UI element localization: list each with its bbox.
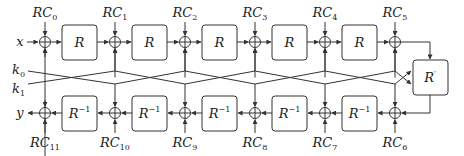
xor-bottom-4-icon [320, 108, 331, 119]
to-middle-arrow [401, 42, 431, 59]
round-constant-label-bottom-5-base: RC [382, 135, 403, 150]
round-constant-label-top-0: RC0 [32, 5, 58, 22]
key-label-k1-subscript: 1 [20, 89, 25, 98]
round-function-label-3-base: R [284, 35, 295, 50]
from-middle-arrow [402, 95, 431, 113]
round-constant-label-bottom-0-base: RC [29, 135, 50, 150]
round-function-label-3: R [284, 35, 295, 50]
inverse-round-label-2-superscript: −1 [219, 105, 231, 114]
key-label-k0: k0 [12, 62, 25, 79]
round-constant-label-bottom-4-base: RC [312, 135, 333, 150]
round-constant-label-bottom-1-base: RC [99, 135, 120, 150]
round-function-label-1: R [144, 35, 155, 50]
xor-bottom-5-icon [390, 108, 401, 119]
xor-bottom-0-icon [40, 108, 51, 119]
inverse-round-label-1-superscript: −1 [149, 105, 161, 114]
round-function-label-0-base: R [74, 35, 85, 50]
xor-top-4-icon [320, 37, 331, 48]
round-constant-label-bottom-3-base: RC [242, 135, 263, 150]
round-constant-label-top-5: RC5 [382, 5, 408, 22]
round-constant-label-bottom-2: RC9 [172, 135, 198, 152]
xor-top-0-icon [40, 37, 51, 48]
round-constant-label-top-3: RC3 [242, 5, 268, 22]
round-constant-label-top-2-subscript: 2 [192, 13, 197, 22]
xor-top-5-icon [390, 37, 401, 48]
xor-bottom-2-icon [180, 108, 191, 119]
key-label-k1-base: k [12, 81, 20, 96]
output-label-y-base: y [15, 105, 24, 120]
inverse-round-label-3-superscript: −1 [289, 105, 301, 114]
round-constant-label-bottom-5: RC6 [382, 135, 408, 152]
round-constant-label-bottom-4-subscript: 7 [332, 143, 337, 152]
inverse-round-label-4-base: R [348, 106, 359, 121]
inverse-round-label-0-superscript: −1 [79, 105, 91, 114]
inverse-round-label-1-base: R [138, 106, 149, 121]
input-label-x: x [16, 34, 24, 49]
round-constant-label-bottom-4: RC7 [312, 135, 338, 152]
round-function-label-4-base: R [354, 35, 365, 50]
inverse-round-label-2-base: R [208, 106, 219, 121]
inverse-round-label-0-base: R [68, 106, 79, 121]
round-constant-label-top-2-base: RC [172, 5, 193, 20]
inverse-round-label-4-superscript: −1 [359, 105, 371, 114]
round-constant-label-top-4: RC4 [312, 5, 338, 22]
xor-top-1-icon [110, 37, 121, 48]
round-constant-label-bottom-3: RC8 [242, 135, 268, 152]
cipher-structure-diagram: xRC0RC1RC2RC3RC4RC5RRRRRR′k0k1RC11RC10RC… [0, 0, 464, 156]
round-constant-label-top-1-subscript: 1 [122, 13, 127, 22]
round-constant-label-top-1: RC1 [102, 5, 128, 22]
round-constant-label-bottom-1-subscript: 10 [120, 143, 130, 152]
round-constant-label-top-0-base: RC [32, 5, 53, 20]
input-label-x-base: x [16, 34, 24, 49]
round-constant-label-top-2: RC2 [172, 5, 198, 22]
round-function-label-2-base: R [214, 35, 225, 50]
xor-bottom-1-icon [110, 108, 121, 119]
round-constant-label-top-4-base: RC [312, 5, 333, 20]
output-label-y: y [15, 105, 24, 120]
round-constant-label-top-0-subscript: 0 [52, 13, 57, 22]
round-constant-label-bottom-1: RC10 [99, 135, 130, 152]
round-constant-label-bottom-5-subscript: 6 [402, 143, 407, 152]
round-function-label-2: R [214, 35, 225, 50]
round-constant-label-bottom-0: RC11 [29, 135, 60, 152]
middle-function-label-superscript: ′ [434, 69, 436, 78]
key-label-k1: k1 [12, 81, 25, 98]
xor-top-2-icon [180, 37, 191, 48]
round-function-label-0: R [74, 35, 85, 50]
round-constant-label-bottom-3-subscript: 8 [262, 143, 267, 152]
round-constant-label-bottom-2-base: RC [172, 135, 193, 150]
xor-top-3-icon [250, 37, 261, 48]
round-function-label-4: R [354, 35, 365, 50]
round-constant-label-top-4-subscript: 4 [332, 13, 337, 22]
round-constant-label-top-3-base: RC [242, 5, 263, 20]
middle-function-label-base: R [423, 70, 434, 85]
key-line-k1 [28, 71, 411, 84]
key-label-k0-base: k [12, 62, 20, 77]
round-constant-label-top-1-base: RC [102, 5, 123, 20]
xor-bottom-3-icon [250, 108, 261, 119]
round-constant-label-top-3-subscript: 3 [262, 13, 267, 22]
round-constant-label-top-5-subscript: 5 [402, 13, 407, 22]
round-constant-label-top-5-base: RC [382, 5, 403, 20]
round-constant-label-bottom-2-subscript: 9 [192, 143, 197, 152]
inverse-round-label-3-base: R [278, 106, 289, 121]
key-label-k0-subscript: 0 [20, 70, 25, 79]
round-function-label-1-base: R [144, 35, 155, 50]
round-constant-label-bottom-0-subscript: 11 [50, 143, 60, 152]
